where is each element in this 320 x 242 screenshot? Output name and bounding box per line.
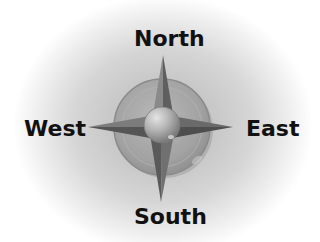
label-east: East bbox=[246, 116, 300, 141]
center-sphere bbox=[144, 107, 180, 143]
label-north: North bbox=[134, 26, 205, 51]
label-west: West bbox=[24, 116, 86, 141]
label-south: South bbox=[134, 204, 207, 229]
